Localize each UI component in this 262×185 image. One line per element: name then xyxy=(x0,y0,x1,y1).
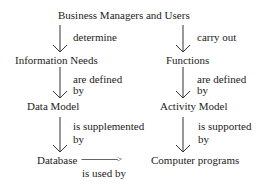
edge-label-is-used-by: is used by xyxy=(82,167,126,179)
node-database: Database xyxy=(37,154,77,166)
dashed-arrow: ------------------> xyxy=(81,153,121,165)
node-business-managers: Business Managers and Users xyxy=(58,9,190,21)
edge-label-supported-1: is supported xyxy=(198,120,251,132)
edge-label-supplemented-2: by xyxy=(73,133,84,145)
node-activity-model: Activity Model xyxy=(160,100,228,112)
edge-label-supported-2: by xyxy=(198,133,209,145)
edge-label-are-defined-left-2: by xyxy=(73,84,84,96)
edge-label-supplemented-1: is supplemented xyxy=(73,120,144,132)
node-information-needs: Information Needs xyxy=(15,54,98,66)
edge-label-determine: determine xyxy=(73,31,117,43)
edge-label-carry-out: carry out xyxy=(197,31,236,43)
edge-label-are-defined-right-2: by xyxy=(197,84,208,96)
node-data-model: Data Model xyxy=(27,100,79,112)
node-computer-programs: Computer programs xyxy=(151,154,239,166)
node-functions: Functions xyxy=(166,54,209,66)
